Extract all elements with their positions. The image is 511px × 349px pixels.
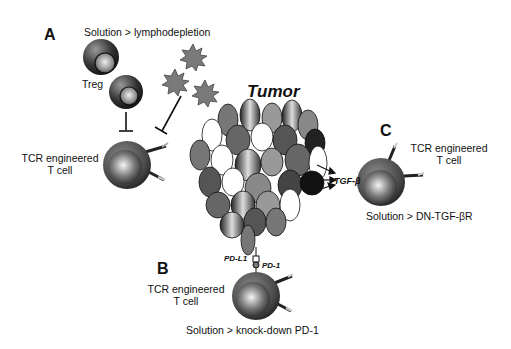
suppressive-factor-stars bbox=[162, 44, 219, 107]
tcell-b bbox=[232, 272, 293, 320]
tumor-title: Tumor bbox=[247, 82, 300, 102]
pdl1-label: PD-L1 bbox=[224, 254, 247, 263]
panel-b-letter: B bbox=[157, 260, 169, 278]
inhibition-arrow-factors bbox=[155, 96, 181, 134]
panel-b-tcell-label-line1: TCR engineered bbox=[145, 283, 227, 295]
tcell-a bbox=[103, 141, 168, 189]
panel-a-tcell-label-line1: TCR engineered bbox=[20, 152, 100, 164]
panel-a-tcell-label-line2: T cell bbox=[20, 164, 100, 176]
pdl1-pd1-interaction bbox=[253, 247, 259, 276]
pd1-label: PD-1 bbox=[262, 261, 280, 270]
panel-a-letter: A bbox=[44, 26, 56, 44]
treg-cell-1 bbox=[83, 39, 119, 75]
panel-c-tcell-label-line2: T cell bbox=[408, 154, 490, 166]
tumor-mass bbox=[190, 99, 327, 255]
panel-b-solution: Solution > knock-down PD-1 bbox=[186, 324, 319, 336]
panel-b-tcell-label-line2: T cell bbox=[145, 295, 227, 307]
panel-b-tcell-label: TCR engineered T cell bbox=[145, 283, 227, 307]
panel-c-tcell-label-line1: TCR engineered bbox=[408, 142, 490, 154]
panel-c-letter: C bbox=[380, 122, 392, 140]
treg-cell-2 bbox=[109, 75, 143, 109]
treg-label: Treg bbox=[82, 78, 103, 90]
panel-c-solution: Solution > DN-TGF-βR bbox=[366, 210, 473, 222]
inhibition-arrow-treg bbox=[119, 112, 133, 131]
panel-a-tcell-label: TCR engineered T cell bbox=[20, 152, 100, 176]
panel-c-tcell-label: TCR engineered T cell bbox=[408, 142, 490, 166]
panel-a-solution: Solution > lymphodepletion bbox=[84, 26, 210, 38]
tgf-beta-label: TGF-β bbox=[334, 176, 361, 186]
